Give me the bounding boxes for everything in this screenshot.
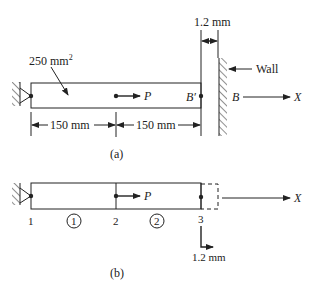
pin-support-icon bbox=[12, 183, 31, 205]
load-label-a: P bbox=[143, 89, 152, 103]
pin-support-icon bbox=[12, 82, 31, 106]
dim-right-label: 150 mm bbox=[136, 118, 176, 132]
figure-b-caption: (b) bbox=[110, 266, 124, 280]
displaced-outline bbox=[201, 184, 218, 209]
x-axis-label-b: X bbox=[293, 191, 302, 205]
figure-a-caption: (a) bbox=[110, 147, 123, 161]
displacement-arrow bbox=[201, 226, 213, 247]
wall-label: Wall bbox=[256, 62, 279, 76]
element-label-1: 1 bbox=[71, 215, 77, 227]
wall-icon bbox=[219, 58, 227, 136]
node-label-3: 3 bbox=[198, 213, 204, 225]
area-label: 250 mm2 bbox=[29, 53, 73, 68]
figure-b: P X 1 1 2 2 3 1.2 mm (b) bbox=[12, 183, 302, 280]
node-3 bbox=[199, 195, 203, 199]
node-label-1: 1 bbox=[28, 215, 34, 227]
displacement-label: 1.2 mm bbox=[192, 251, 226, 263]
node-label-2: 2 bbox=[113, 215, 119, 227]
area-leader bbox=[51, 67, 68, 95]
element-label-2: 2 bbox=[154, 215, 160, 227]
wall-point-label: B bbox=[232, 90, 240, 104]
node-1 bbox=[29, 194, 33, 198]
node-a-left bbox=[29, 94, 33, 98]
gap-label: 1.2 mm bbox=[194, 15, 231, 29]
dim-left-label: 150 mm bbox=[50, 118, 90, 132]
figure-a: 250 mm2 P B′ Wall B X 1.2 mm 150 mm 15 bbox=[12, 15, 302, 161]
end-label-b-prime: B′ bbox=[186, 90, 196, 104]
load-label-b: P bbox=[143, 189, 152, 203]
bar-diagram: 250 mm2 P B′ Wall B X 1.2 mm 150 mm 15 bbox=[0, 0, 317, 287]
x-axis-label-a: X bbox=[293, 90, 302, 104]
